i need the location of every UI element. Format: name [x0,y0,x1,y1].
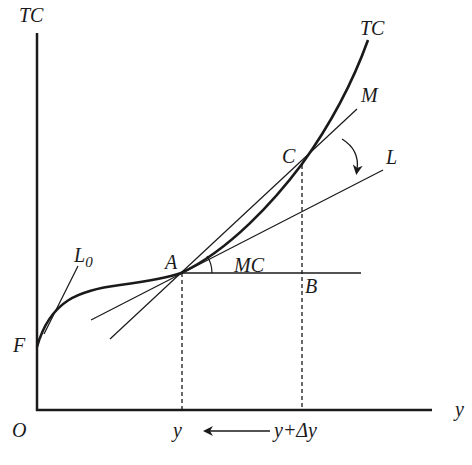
x-axis-label: y [453,398,464,421]
point-b-label: B [305,275,317,297]
tangent-line-l0 [44,266,78,334]
line-m-label: M [360,84,379,106]
angle-mc-label: MC [233,254,265,276]
secant-line-m [110,109,357,339]
line-l-label: L [385,146,397,168]
y-axis-label: TC [19,4,44,26]
tc-curve [37,40,368,347]
origin-label: O [12,419,26,441]
point-c-label: C [282,145,296,167]
point-f-label: F [12,334,26,356]
tc-curve-label: TC [360,17,385,39]
tick-label-y: y [171,419,182,442]
line-l0-label: L0 [73,244,93,270]
rotation-arrow-icon [342,139,357,170]
tc-diagram: TC TC M L C A MC B L0 F O y y y+Δy [0,0,472,465]
point-a-label: A [163,251,178,273]
tick-label-y-plus-dy: y+Δy [272,419,317,442]
tangent-line-l [91,170,383,320]
